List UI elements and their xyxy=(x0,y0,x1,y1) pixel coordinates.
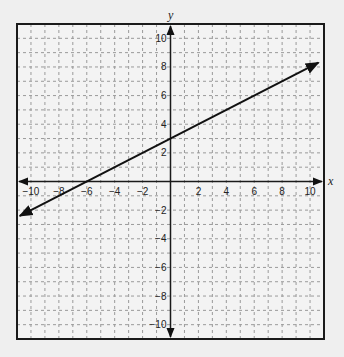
y-tick-label: 4 xyxy=(161,119,167,130)
chart-svg: −10−8−6−4−2246810108642−2−4−6−8−10 x y xyxy=(0,0,344,357)
x-tick-label: −4 xyxy=(109,186,121,197)
y-tick-label: −8 xyxy=(155,291,167,302)
x-tick-label: −2 xyxy=(137,186,149,197)
y-tick-label: 8 xyxy=(161,61,167,72)
y-tick-label: 10 xyxy=(155,33,167,44)
x-axis-label: x xyxy=(327,174,334,188)
x-tick-label: −6 xyxy=(81,186,93,197)
x-tick-label: −10 xyxy=(22,186,39,197)
coordinate-plane-chart: −10−8−6−4−2246810108642−2−4−6−8−10 x y xyxy=(0,0,344,357)
x-tick-label: 4 xyxy=(224,186,230,197)
y-tick-label: 2 xyxy=(161,147,167,158)
x-tick-label: 8 xyxy=(279,186,285,197)
y-axis-label: y xyxy=(167,8,174,22)
x-tick-label: 2 xyxy=(196,186,202,197)
x-tick-label: 10 xyxy=(304,186,316,197)
y-tick-label: −4 xyxy=(155,233,167,244)
y-tick-label: −10 xyxy=(150,319,167,330)
y-tick-label: −6 xyxy=(155,262,167,273)
x-tick-label: 6 xyxy=(251,186,257,197)
y-tick-label: −2 xyxy=(155,205,167,216)
y-tick-label: 6 xyxy=(161,90,167,101)
